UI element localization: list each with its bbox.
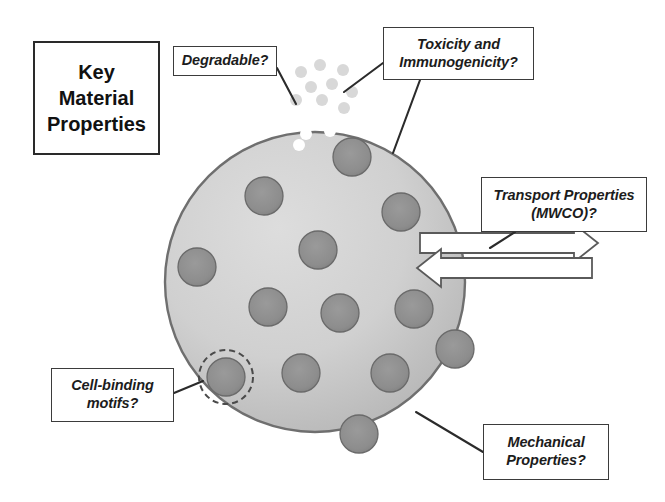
embedded-particle xyxy=(321,294,359,332)
callout-mechanical-line-1: Mechanical xyxy=(507,434,584,452)
embedded-particle xyxy=(340,415,378,453)
embedded-particle xyxy=(282,354,320,392)
callout-toxicity-line-1: Toxicity and xyxy=(417,36,500,54)
callout-degradable-line-1: Degradable? xyxy=(182,52,269,70)
callout-toxicity: Toxicity and Immunogenicity? xyxy=(383,27,534,80)
embedded-particle xyxy=(249,288,287,326)
leader-mechanical xyxy=(416,412,483,452)
callout-toxicity-line-2: Immunogenicity? xyxy=(399,54,518,72)
embedded-particle xyxy=(382,193,420,231)
title-line-1: Key xyxy=(78,59,115,85)
callout-degradable: Degradable? xyxy=(173,46,277,76)
leader-cellbinding xyxy=(174,381,203,393)
embedded-particle xyxy=(371,354,409,392)
callout-cellbinding-line-1: Cell-binding xyxy=(71,377,154,395)
degradation-fragment-group xyxy=(290,59,358,114)
degradation-fragment xyxy=(338,102,350,114)
callout-cell-binding-motifs: Cell-binding motifs? xyxy=(51,368,174,422)
degradation-fragment xyxy=(314,59,326,71)
degradation-fragment xyxy=(337,64,349,76)
embedded-particle xyxy=(436,330,474,368)
callout-mechanical-line-2: Properties? xyxy=(506,452,585,470)
leader-degradable xyxy=(277,68,296,104)
pore xyxy=(312,111,324,123)
title-line-3: Properties xyxy=(47,111,146,137)
pore xyxy=(290,116,302,128)
callout-transport-line-1: Transport Properties xyxy=(493,187,634,205)
embedded-particle xyxy=(395,290,433,328)
embedded-particle xyxy=(299,231,337,269)
diagram-canvas: Key Material Properties Degradable? Toxi… xyxy=(0,0,665,502)
pore xyxy=(293,139,305,151)
pore xyxy=(300,128,312,140)
embedded-particle xyxy=(245,177,283,215)
callout-mechanical-properties: Mechanical Properties? xyxy=(483,424,609,480)
embedded-particle xyxy=(178,248,216,286)
embedded-particle xyxy=(333,138,371,176)
degradation-fragment xyxy=(326,78,338,90)
leader-toxicity-a xyxy=(344,63,383,92)
title-line-2: Material xyxy=(59,85,135,111)
leader-toxicity-b xyxy=(393,80,420,153)
degradation-fragment xyxy=(316,94,328,106)
page-title: Key Material Properties xyxy=(33,41,160,155)
degradation-fragment xyxy=(346,86,358,98)
degradation-fragment xyxy=(305,81,317,93)
degradation-fragment xyxy=(295,66,307,78)
pore xyxy=(351,114,363,126)
embedded-particle xyxy=(207,358,245,396)
pore xyxy=(324,125,336,137)
callout-cellbinding-line-2: motifs? xyxy=(87,395,139,413)
callout-transport-properties: Transport Properties (MWCO)? xyxy=(481,177,647,232)
callout-transport-line-2: (MWCO)? xyxy=(531,205,596,223)
